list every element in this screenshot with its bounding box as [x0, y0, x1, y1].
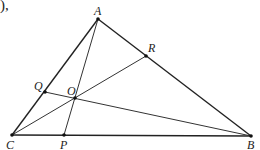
point-c	[10, 133, 14, 137]
label-p: P	[59, 138, 68, 150]
point-q	[43, 90, 47, 94]
label-o: O	[67, 84, 76, 98]
label-q: Q	[34, 79, 43, 93]
point-p	[62, 133, 66, 137]
side-bc	[12, 135, 251, 136]
triangle-diagram: A B C P Q R O	[0, 0, 260, 150]
side-ca	[12, 19, 98, 135]
cevian-cr	[12, 56, 146, 135]
cevian-ap	[64, 19, 98, 135]
label-a: A	[93, 4, 102, 18]
label-c: C	[6, 138, 15, 150]
label-r: R	[147, 41, 156, 55]
label-b: B	[247, 138, 255, 150]
side-ab	[98, 19, 251, 136]
